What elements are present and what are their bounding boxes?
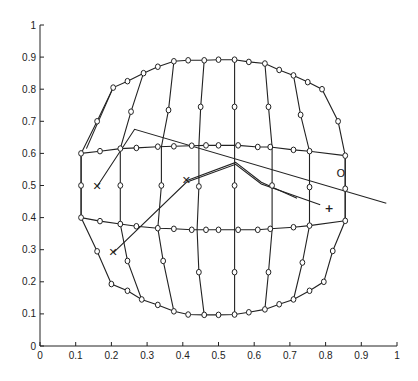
mesh-node-marker [189, 227, 194, 233]
x-tick-label: 0 [37, 350, 43, 361]
mesh-node-marker [268, 144, 273, 150]
plus-marker: + [325, 202, 334, 215]
mesh-node-marker [343, 218, 348, 224]
mesh-node-marker [79, 151, 84, 157]
mesh-nodes [79, 57, 348, 318]
mesh-node-marker [129, 109, 134, 115]
mesh-node-marker [111, 85, 116, 91]
mesh-node-marker [216, 227, 221, 233]
mesh-node-marker [320, 86, 325, 92]
mesh-node-marker [268, 226, 273, 232]
mesh-node-marker [171, 226, 176, 232]
mesh-node-marker [216, 57, 221, 63]
x-tick-label: 1 [394, 350, 400, 361]
x-tick-label: 0.8 [319, 350, 333, 361]
mesh-node-marker [95, 119, 100, 125]
mesh-node-marker [202, 58, 207, 64]
mesh-node-marker [155, 64, 160, 70]
mesh-node-marker [255, 144, 260, 150]
mesh-node-marker [246, 59, 251, 65]
mesh-node-marker [232, 57, 237, 63]
mesh-node-marker [305, 79, 310, 85]
mesh-node-marker [202, 312, 207, 318]
mesh-node-marker [232, 269, 237, 275]
mesh-node-marker [291, 147, 296, 153]
x-tick-label: 0.3 [140, 350, 154, 361]
trajectory-b-offset [186, 162, 297, 198]
mesh-node-marker [134, 145, 139, 151]
x-tick-label: 0.7 [283, 350, 297, 361]
trajectory-b [113, 164, 320, 253]
x-ticks: 00.10.20.30.40.50.60.70.80.91 [37, 342, 400, 361]
y-tick-label: 0.2 [22, 276, 36, 287]
mesh-node-marker [166, 107, 171, 113]
mesh-node-marker [236, 227, 241, 233]
mesh-node-marker [118, 221, 123, 227]
y-tick-label: 0.5 [22, 180, 36, 191]
mesh-node-marker [196, 184, 201, 190]
mesh-node-marker [298, 112, 303, 118]
mesh-node-marker [109, 281, 114, 287]
mesh-node-marker [277, 67, 282, 73]
mesh-node-marker [277, 301, 282, 307]
mesh-node-marker [171, 58, 176, 64]
mesh-node-marker [139, 297, 144, 303]
mesh-node-marker [307, 288, 312, 294]
y-tick-label: 0.3 [22, 244, 36, 255]
x-tick-label: 0.9 [354, 350, 368, 361]
mesh-node-marker [236, 143, 241, 149]
mesh-node-marker [159, 183, 164, 189]
mesh-node-marker [307, 148, 312, 154]
mesh-node-marker [98, 148, 103, 154]
x-tick-label: 0.5 [212, 350, 226, 361]
mesh-node-marker [291, 73, 296, 79]
mesh-node-marker [263, 61, 268, 67]
mesh-node-marker [134, 223, 139, 229]
mesh-node-marker [216, 312, 221, 318]
mesh-node-marker [232, 104, 237, 110]
mesh-col-2 [120, 73, 143, 299]
mesh-node-marker [186, 58, 191, 64]
mesh-node-marker [321, 279, 326, 285]
mesh-node-marker [155, 225, 160, 231]
mesh-node-marker [343, 186, 348, 192]
mesh-node-marker [171, 309, 176, 315]
mesh-node-marker [171, 144, 176, 150]
y-tick-label: 0.7 [22, 116, 36, 127]
mesh-node-marker [330, 248, 335, 254]
mesh-node-marker [232, 183, 237, 189]
x-tick-label: 0.2 [104, 350, 118, 361]
y-tick-label: 0.1 [22, 308, 36, 319]
y-tick-label: 1 [30, 20, 36, 31]
x-marker-2: ✕ [109, 246, 118, 259]
mesh-node-marker [161, 258, 166, 264]
mesh-node-marker [141, 70, 146, 76]
o-marker: O [337, 167, 346, 180]
mesh-node-marker [263, 307, 268, 313]
mesh-node-marker [125, 288, 130, 294]
mesh-node-marker [125, 78, 130, 84]
mesh-plot: 00.10.20.30.40.50.60.70.80.91 00.10.20.3… [0, 0, 418, 381]
x-marker-1: ✕ [93, 180, 102, 193]
mesh-node-marker [232, 312, 237, 318]
mesh-node-marker [79, 183, 84, 189]
mesh-node-marker [98, 218, 103, 224]
mesh-node-marker [291, 297, 296, 303]
mesh-node-marker [196, 269, 201, 275]
mesh-node-marker [343, 153, 348, 159]
mesh-node-marker [266, 269, 271, 275]
y-tick-label: 0.6 [22, 148, 36, 159]
x-tick-label: 0.4 [176, 350, 190, 361]
mesh-col-1 [86, 88, 113, 149]
markers: ✕✕✕+O [93, 167, 346, 259]
x-marker-3: ✕ [182, 174, 191, 187]
x-tick-label: 0.1 [69, 350, 83, 361]
mesh-node-marker [198, 104, 203, 110]
mesh-node-marker [155, 302, 160, 308]
mesh-node-marker [79, 215, 84, 221]
mesh-node-marker [189, 143, 194, 149]
mesh-node-marker [95, 249, 100, 255]
mesh-node-marker [204, 227, 209, 233]
mesh-node-marker [336, 119, 341, 125]
mesh-node-marker [300, 260, 305, 266]
